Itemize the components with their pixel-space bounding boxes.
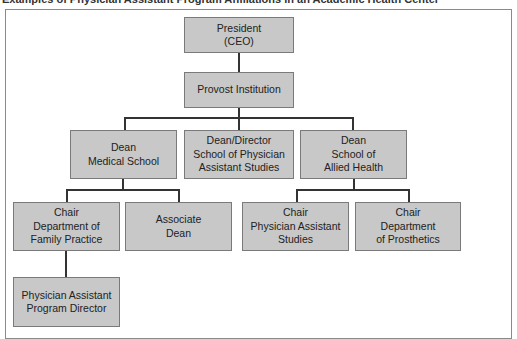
node-dean-medical-school: Dean Medical School (70, 130, 177, 179)
node-associate-dean: Associate Dean (125, 202, 232, 251)
node-chair-family-practice: Chair Department of Family Practice (13, 202, 120, 251)
node-pa-program-director: Physician Assistant Program Director (13, 277, 120, 327)
connector-to-chair-prosthetics (408, 189, 410, 202)
connector-to-chair-family (66, 189, 68, 202)
connector-to-dean-allied (352, 117, 354, 130)
connector-deans-horizontal (124, 117, 354, 119)
node-dean-director-pa-school: Dean/Director School of Physician Assist… (184, 130, 294, 179)
node-chair-pa-studies: Chair Physician Assistant Studies (242, 202, 349, 251)
node-dean-allied-health: Dean School of Allied Health (300, 130, 407, 179)
node-chair-prosthetics: Chair Department of Prosthetics (355, 202, 461, 251)
figure-title: Examples of Physician Assistant Program … (2, 0, 439, 5)
connector-to-dean-medical (124, 117, 126, 130)
connector-president-provost (238, 52, 240, 72)
connector-medical-horizontal (66, 189, 180, 191)
node-provost: Provost Institution (184, 72, 294, 108)
connector-to-associate-dean (178, 189, 180, 202)
connector-chair-family-to-pa-director (65, 250, 67, 277)
connector-allied-horizontal (296, 189, 410, 191)
node-president: President (CEO) (184, 17, 294, 53)
connector-to-chair-pa-studies (296, 189, 298, 202)
